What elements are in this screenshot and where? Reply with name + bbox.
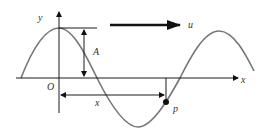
point-p-dot [163, 99, 169, 105]
origin-label: O [47, 81, 54, 92]
point-label: p [172, 103, 178, 114]
amplitude-label: A [92, 46, 100, 57]
wave-diagram: y x O A x p u [0, 0, 265, 135]
y-axis-label: y [37, 12, 43, 23]
x-axis-label: x [240, 74, 246, 85]
velocity-label: u [188, 19, 193, 30]
distance-label: x [94, 97, 100, 108]
